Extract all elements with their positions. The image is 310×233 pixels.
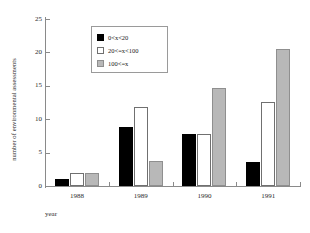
bar [119,127,133,186]
legend-swatch-icon [97,47,104,54]
y-tick-label-text: 20 [26,49,42,56]
bar [246,162,260,186]
x-tick-label: 1991 [248,192,288,200]
legend-item: 0<x<20 [97,31,167,44]
legend-item-label: 100<=x [108,60,128,67]
bar [212,88,226,186]
legend-swatch-icon [97,34,104,41]
bar [55,179,69,186]
bar [197,134,211,186]
y-tick-label-text: 25 [26,16,42,23]
y-tick-label-text: 15 [26,82,42,89]
bar [276,49,290,186]
chart-legend: 0<x<2020<=x<100100<=x [91,26,168,73]
y-tick-label: 10 [24,116,42,123]
y-tick-label-text: 0 [26,183,42,190]
y-tick-label: 0 [24,183,42,190]
y-axis-title: number of environmental assessments [10,50,17,170]
y-tick-label-text: 5 [26,149,42,156]
x-tick-label: 1989 [121,192,161,200]
y-tick-label: 20 [24,49,42,56]
x-tick-label: 1990 [184,192,224,200]
legend-item: 100<=x [97,57,167,70]
legend-swatch-icon [97,60,104,67]
bar [85,173,99,186]
plot-area [45,19,300,186]
bar [149,161,163,186]
legend-item: 20<=x<100 [97,44,167,57]
y-tick [46,186,50,187]
bar [261,102,275,186]
bar-chart: 0510152025 1988198919901991 number of en… [0,0,310,233]
y-tick-label: 15 [24,82,42,89]
x-axis-title: year [45,210,57,218]
y-tick-label-text: 10 [26,116,42,123]
y-tick-label: 25 [24,16,42,23]
y-tick-label: 5 [24,149,42,156]
x-tick [300,182,301,187]
legend-item-label: 20<=x<100 [108,47,139,54]
bar [134,107,148,186]
bar [70,173,84,186]
legend-item-label: 0<x<20 [108,34,128,41]
bar [182,134,196,186]
x-tick-label: 1988 [57,192,97,200]
